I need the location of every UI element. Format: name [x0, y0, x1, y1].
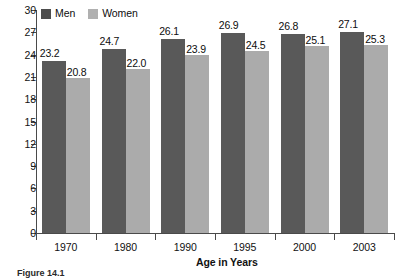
- y-tick-label-wrap: 0: [0, 228, 36, 238]
- plot-area: 23.220.824.722.026.123.926.924.526.825.1…: [36, 10, 394, 233]
- x-tick-mark: [334, 234, 335, 240]
- y-tick-label-wrap: 6: [0, 183, 36, 193]
- x-tick-label-1990: 1990: [155, 241, 215, 253]
- bar-women-2003: [364, 45, 388, 233]
- y-tick-label-wrap: 21: [0, 72, 36, 82]
- x-axis-title: Age in Years: [196, 256, 258, 268]
- bar-men-1995: [221, 33, 245, 233]
- legend-label-women: Women: [102, 8, 138, 19]
- bar-women-1980: [126, 69, 150, 233]
- y-tick-label-wrap: 27: [0, 27, 36, 37]
- bar-chart-figure: 036912151821242730 197019801990199520002…: [0, 0, 413, 278]
- legend-item-women: Women: [88, 8, 138, 19]
- bar-men-2000: [281, 34, 305, 233]
- x-tick-mark: [155, 234, 156, 240]
- bar-women-1970: [66, 78, 90, 233]
- bar-men-1980: [102, 49, 126, 233]
- legend-label-men: Men: [55, 8, 75, 19]
- bar-value-label-men-1990: 26.1: [159, 26, 179, 37]
- bar-value-label-women-1980: 22.0: [127, 58, 147, 69]
- y-tick-label: 18: [10, 94, 36, 104]
- bar-value-label-men-2003: 27.1: [338, 19, 358, 30]
- y-tick-label: 12: [10, 139, 36, 149]
- y-tick-label: 27: [10, 27, 36, 37]
- y-tick-label: 9: [10, 161, 36, 171]
- y-tick-label: 21: [10, 72, 36, 82]
- y-tick-label-wrap: 18: [0, 94, 36, 104]
- bar-value-label-women-1995: 24.5: [246, 40, 266, 51]
- bar-value-label-men-1980: 24.7: [100, 36, 120, 47]
- y-tick-label-wrap: 12: [0, 139, 36, 149]
- bar-value-label-women-1990: 23.9: [186, 44, 206, 55]
- y-tick-label-wrap: 15: [0, 117, 36, 127]
- bar-value-label-women-2000: 25.1: [306, 35, 326, 46]
- legend-item-men: Men: [41, 8, 75, 19]
- bar-men-1990: [161, 39, 185, 233]
- figure-caption: Figure 14.1: [17, 268, 65, 278]
- chart-legend: Men Women: [41, 8, 138, 19]
- bar-value-label-men-1970: 23.2: [40, 48, 60, 59]
- y-tick-label: 6: [10, 183, 36, 193]
- bar-value-label-women-1970: 20.8: [67, 67, 87, 78]
- legend-swatch-men-icon: [41, 9, 51, 19]
- x-tick-label-1970: 1970: [36, 241, 96, 253]
- bar-women-1995: [245, 51, 269, 233]
- y-tick-label: 3: [10, 206, 36, 216]
- y-tick-label-wrap: 3: [0, 206, 36, 216]
- y-tick-label: 30: [10, 5, 36, 15]
- bar-value-label-women-2003: 25.3: [365, 34, 385, 45]
- y-tick-label-wrap: 24: [0, 50, 36, 60]
- legend-swatch-women-icon: [88, 9, 98, 19]
- y-tick-label-wrap: 30: [0, 5, 36, 15]
- bar-women-1990: [185, 55, 209, 233]
- bar-women-2000: [305, 46, 329, 233]
- x-tick-mark: [394, 234, 395, 240]
- y-tick-label: 15: [10, 117, 36, 127]
- bar-value-label-men-1995: 26.9: [219, 20, 239, 31]
- x-tick-mark: [96, 234, 97, 240]
- x-tick-mark: [275, 234, 276, 240]
- x-tick-mark: [215, 234, 216, 240]
- bar-men-2003: [340, 32, 364, 233]
- y-tick-label: 24: [10, 50, 36, 60]
- x-tick-mark: [36, 234, 37, 240]
- bar-men-1970: [42, 61, 66, 233]
- bar-value-label-men-2000: 26.8: [279, 21, 299, 32]
- x-tick-label-2003: 2003: [334, 241, 394, 253]
- y-tick-label: 0: [10, 228, 36, 238]
- y-tick-label-wrap: 9: [0, 161, 36, 171]
- x-tick-label-1995: 1995: [215, 241, 275, 253]
- x-tick-label-2000: 2000: [275, 241, 335, 253]
- x-tick-label-1980: 1980: [96, 241, 156, 253]
